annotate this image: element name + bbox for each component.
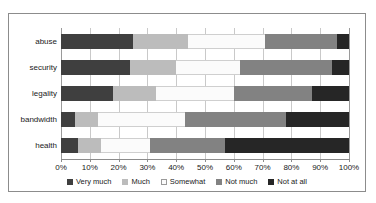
legend-swatch-icon — [268, 179, 274, 185]
x-axis: 0%10%20%30%40%50%60%70%80%90%100% — [61, 159, 349, 175]
x-tick-label-70: 70% — [248, 163, 278, 172]
segment-abuse-somewhat[interactable] — [188, 34, 266, 49]
legend-swatch-icon — [216, 179, 222, 185]
bar-security[interactable] — [61, 60, 349, 75]
x-tick-label-80: 80% — [276, 163, 306, 172]
chart-frame: abusesecuritylegalitybandwidthhealth 0%1… — [8, 13, 366, 192]
segment-health-not-much[interactable] — [150, 138, 225, 153]
segment-bandwidth-somewhat[interactable] — [98, 112, 184, 127]
legend-label: Very much — [76, 177, 111, 186]
segment-bandwidth-much[interactable] — [75, 112, 98, 127]
y-axis-label-bandwidth: bandwidth — [11, 112, 57, 127]
legend-label: Not much — [225, 177, 257, 186]
segment-abuse-very-much[interactable] — [61, 34, 133, 49]
x-tick-40 — [176, 159, 177, 162]
x-tick-label-100: 100% — [334, 163, 364, 172]
segment-bandwidth-not-at-all[interactable] — [286, 112, 349, 127]
x-tick-label-90: 90% — [305, 163, 335, 172]
segment-legality-not-much[interactable] — [234, 86, 312, 101]
legend-item-not-much[interactable]: Not much — [216, 177, 257, 186]
legend-label: Somewhat — [170, 177, 205, 186]
legend-item-somewhat[interactable]: Somewhat — [161, 177, 205, 186]
legend-swatch-icon — [122, 179, 128, 185]
legend-label: Not at all — [277, 177, 307, 186]
segment-health-somewhat[interactable] — [101, 138, 150, 153]
chart-legend: Very muchMuchSomewhatNot muchNot at all — [9, 177, 365, 186]
segment-bandwidth-not-much[interactable] — [185, 112, 286, 127]
bar-legality[interactable] — [61, 86, 349, 101]
segment-security-very-much[interactable] — [61, 60, 130, 75]
segment-security-not-much[interactable] — [240, 60, 332, 75]
x-tick-10 — [90, 159, 91, 162]
segment-health-much[interactable] — [78, 138, 101, 153]
x-tick-70 — [263, 159, 264, 162]
segment-abuse-not-much[interactable] — [265, 34, 337, 49]
x-tick-80 — [291, 159, 292, 162]
segment-legality-very-much[interactable] — [61, 86, 113, 101]
x-tick-50 — [205, 159, 206, 162]
x-tick-label-0: 0% — [46, 163, 76, 172]
x-tick-label-20: 20% — [104, 163, 134, 172]
y-axis-label-abuse: abuse — [11, 34, 57, 49]
y-axis-label-legality: legality — [11, 86, 57, 101]
x-tick-label-60: 60% — [219, 163, 249, 172]
segment-abuse-not-at-all[interactable] — [337, 34, 349, 49]
segment-bandwidth-very-much[interactable] — [61, 112, 75, 127]
x-tick-30 — [147, 159, 148, 162]
segment-health-not-at-all[interactable] — [225, 138, 349, 153]
segment-security-not-at-all[interactable] — [332, 60, 349, 75]
x-tick-20 — [119, 159, 120, 162]
legend-label: Much — [131, 177, 149, 186]
segment-security-much[interactable] — [130, 60, 176, 75]
segment-abuse-much[interactable] — [133, 34, 188, 49]
bar-abuse[interactable] — [61, 34, 349, 49]
y-axis-category-labels: abusesecuritylegalitybandwidthhealth — [9, 28, 57, 159]
legend-item-much[interactable]: Much — [122, 177, 149, 186]
x-tick-90 — [320, 159, 321, 162]
legend-swatch-icon — [161, 179, 167, 185]
y-axis-label-health: health — [11, 138, 57, 153]
legend-item-not-at-all[interactable]: Not at all — [268, 177, 307, 186]
x-tick-label-50: 50% — [190, 163, 220, 172]
bar-bandwidth[interactable] — [61, 112, 349, 127]
segment-health-very-much[interactable] — [61, 138, 78, 153]
segment-legality-somewhat[interactable] — [156, 86, 234, 101]
x-tick-label-30: 30% — [132, 163, 162, 172]
x-tick-60 — [234, 159, 235, 162]
segment-legality-not-at-all[interactable] — [312, 86, 349, 101]
gridline-100 — [349, 28, 350, 159]
x-tick-0 — [61, 159, 62, 162]
segment-security-somewhat[interactable] — [176, 60, 239, 75]
x-tick-label-10: 10% — [75, 163, 105, 172]
segment-legality-much[interactable] — [113, 86, 156, 101]
legend-item-very-much[interactable]: Very much — [67, 177, 111, 186]
bar-health[interactable] — [61, 138, 349, 153]
plot-area — [61, 28, 349, 159]
y-axis-label-security: security — [11, 60, 57, 75]
x-tick-100 — [349, 159, 350, 162]
legend-swatch-icon — [67, 179, 73, 185]
x-tick-label-40: 40% — [161, 163, 191, 172]
